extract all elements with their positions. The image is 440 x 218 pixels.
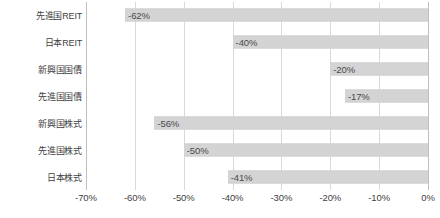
y-axis-label-5: 先進国株式 <box>0 144 82 157</box>
y-axis-label-3: 先進国国債 <box>0 90 82 103</box>
y-axis-label-2: 新興国国債 <box>0 63 82 76</box>
gridline-0 <box>428 2 429 190</box>
bar-value-label: -62% <box>125 10 150 21</box>
x-tick-label-2: -50% <box>173 192 195 203</box>
bar-row: -17% <box>86 83 428 110</box>
y-axis-label-4: 新興国株式 <box>0 117 82 130</box>
bar-chart: 先進国REIT日本REIT新興国国債先進国国債新興国株式先進国株式日本株式 -6… <box>0 0 440 218</box>
x-axis-tick-labels: -70%-60%-50%-40%-30%-20%-10%0% <box>0 192 440 212</box>
x-tick-label-1: -60% <box>124 192 146 203</box>
bar[interactable] <box>184 143 428 156</box>
bar-value-label: -50% <box>184 144 209 155</box>
bar-row: -41% <box>86 163 428 190</box>
bar[interactable] <box>228 170 428 183</box>
x-tick-label-0: -70% <box>75 192 97 203</box>
bar-value-label: -41% <box>228 171 253 182</box>
bar-row: -50% <box>86 136 428 163</box>
y-axis-label-0: 先進国REIT <box>0 9 82 22</box>
bar-value-label: -20% <box>330 64 355 75</box>
bar-value-label: -56% <box>154 117 179 128</box>
bar[interactable] <box>125 9 428 22</box>
bar-row: -40% <box>86 29 428 56</box>
x-tick-label-7: 0% <box>421 192 435 203</box>
bar-value-label: -17% <box>345 90 370 101</box>
bar-rows: -62%-40%-20%-17%-56%-50%-41% <box>86 2 428 190</box>
bar[interactable] <box>233 36 428 49</box>
y-axis-label-6: 日本株式 <box>0 171 82 184</box>
x-tick-label-4: -30% <box>271 192 293 203</box>
bar-row: -56% <box>86 109 428 136</box>
x-tick-label-3: -40% <box>222 192 244 203</box>
x-tick-label-6: -10% <box>368 192 390 203</box>
plot-area: -62%-40%-20%-17%-56%-50%-41% <box>86 2 428 190</box>
bar-value-label: -40% <box>233 37 258 48</box>
x-tick-label-5: -20% <box>319 192 341 203</box>
y-axis-category-labels: 先進国REIT日本REIT新興国国債先進国国債新興国株式先進国株式日本株式 <box>0 2 82 190</box>
bar[interactable] <box>154 116 428 129</box>
y-axis-label-1: 日本REIT <box>0 36 82 49</box>
bar-row: -20% <box>86 56 428 83</box>
bar-row: -62% <box>86 2 428 29</box>
